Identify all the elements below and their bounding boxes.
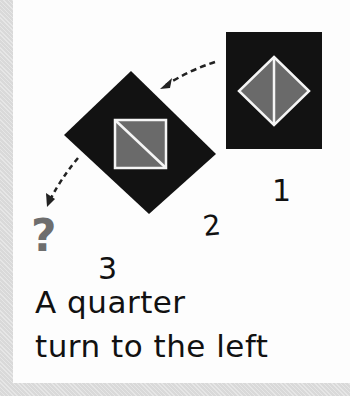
caption-line-2: turn to the left: [35, 331, 268, 362]
card-2: [64, 71, 216, 214]
dashed-arrow-2-to-3: [46, 158, 78, 207]
step-label-2: 2: [202, 211, 223, 241]
question-mark-icon: ?: [31, 214, 57, 258]
card-1: [226, 32, 322, 149]
dashed-arrow-1-to-2: [160, 62, 215, 89]
caption-line-1: A quarter: [35, 287, 186, 318]
step-label-3: 3: [98, 254, 117, 284]
step-label-1: 1: [272, 176, 291, 206]
